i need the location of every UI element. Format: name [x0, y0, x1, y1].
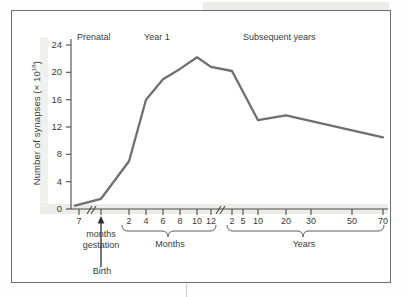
y-tick-label-24: 24: [40, 39, 62, 50]
x-tick-label-year-70: 70: [373, 216, 393, 226]
x-tick-label-prenatal-7: 7: [69, 216, 89, 226]
figure-frame: Number of synapses (× 1018) 0 4 8 12 16 …: [11, 10, 391, 283]
x-group-label-months: Months: [138, 239, 202, 249]
page-spine-mark: [186, 281, 187, 297]
chart-plot-area: Number of synapses (× 1018) 0 4 8 12 16 …: [12, 11, 390, 282]
x-group-label-gestation: months gestation: [64, 229, 138, 251]
y-tick-marks: [66, 45, 71, 209]
gestation-line-1: months: [64, 229, 138, 240]
section-header-subsequent-years: Subsequent years: [243, 32, 316, 42]
x-tick-label-year-10: 10: [248, 216, 268, 226]
x-tick-label-year-20: 20: [276, 216, 296, 226]
section-header-year-one: Year 1: [144, 32, 170, 42]
gestation-line-2: gestation: [64, 240, 138, 251]
brace-years: [227, 225, 384, 237]
y-tick-label-16: 16: [40, 94, 62, 105]
x-tick-label-year-30: 30: [301, 216, 321, 226]
y-tick-label-12: 12: [40, 121, 62, 132]
y-tick-label-8: 8: [40, 148, 62, 159]
figure-page: Number of synapses (× 1018) 0 4 8 12 16 …: [0, 0, 409, 297]
birth-annotation-label: Birth: [82, 266, 122, 276]
x-tick-label-month-12: 12: [201, 216, 221, 226]
synapse-curve: [75, 57, 383, 205]
x-group-label-years: Years: [274, 239, 334, 249]
y-tick-label-4: 4: [40, 176, 62, 187]
y-tick-label-0: 0: [40, 203, 62, 214]
y-tick-label-20: 20: [40, 66, 62, 77]
section-header-prenatal: Prenatal: [77, 32, 111, 42]
x-tick-label-year-50: 50: [342, 216, 362, 226]
